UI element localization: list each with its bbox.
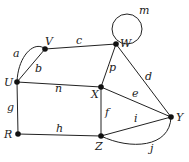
vertex-label-W: W [120, 37, 133, 50]
edge-label-j: j [147, 142, 154, 155]
vertex-X [98, 84, 104, 90]
edge-label-a: a [13, 47, 20, 60]
vertex-U [14, 79, 20, 85]
edge-label-n: n [55, 82, 62, 95]
vertex-label-Z: Z [94, 140, 103, 153]
vertex-R [15, 131, 21, 137]
vertex-label-V: V [45, 35, 54, 48]
edge-label-i: i [134, 112, 138, 125]
vertex-W [113, 41, 119, 47]
graph-diagram: U V W X Y Z R a b c d e f g h i j m n p [0, 0, 189, 162]
edge-label-c: c [76, 34, 82, 47]
vertex-Y [168, 114, 174, 120]
edge-label-d: d [145, 70, 152, 83]
vertex-Z [98, 133, 104, 139]
vertex-label-X: X [90, 88, 100, 101]
edge-label-e: e [132, 87, 139, 100]
edge-label-f: f [104, 106, 111, 119]
edge-label-g: g [7, 101, 14, 114]
edge-d [116, 44, 171, 117]
edge-label-h: h [56, 122, 63, 135]
edge-g [17, 82, 18, 134]
vertex-label-Y: Y [176, 111, 185, 124]
edge-label-b: b [35, 62, 42, 75]
edge-label-p: p [109, 61, 116, 74]
vertex-label-R: R [3, 128, 12, 141]
edge-label-m: m [139, 4, 149, 17]
vertex-label-U: U [4, 76, 14, 89]
